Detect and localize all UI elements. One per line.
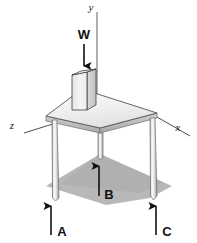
triangular-tabletop bbox=[46, 89, 157, 133]
axis-label-z: z bbox=[9, 119, 15, 131]
force-label-c: C bbox=[162, 224, 172, 239]
force-arrow-c: C bbox=[156, 206, 172, 239]
force-label-b: B bbox=[104, 187, 113, 202]
force-arrow-a: A bbox=[51, 206, 67, 239]
table-leg-c bbox=[150, 118, 157, 200]
axis-label-y: y bbox=[88, 1, 94, 13]
physics-diagram-figure: z x y bbox=[0, 0, 197, 243]
force-label-a: A bbox=[57, 224, 67, 239]
force-label-w: W bbox=[78, 27, 91, 42]
force-arrow-w: W bbox=[78, 27, 91, 66]
table-leg-a bbox=[52, 120, 59, 201]
rectangular-block bbox=[72, 69, 96, 110]
axis-label-x: x bbox=[175, 121, 181, 133]
table-leg-b bbox=[98, 133, 103, 160]
diagram-canvas: z x y bbox=[0, 0, 197, 243]
